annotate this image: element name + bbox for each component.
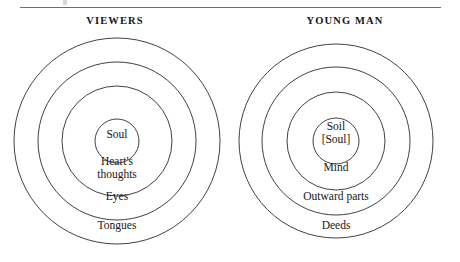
ring-label-hearts-thoughts-line2: thoughts — [74, 168, 160, 181]
ring-label-outward-parts: Outward parts — [303, 190, 368, 203]
ring-label-eyes: Eyes — [106, 190, 128, 203]
ring-label-soul-bracketed: [Soul] — [306, 133, 366, 146]
ring-label-soul: Soul — [106, 128, 127, 141]
ring-label-deeds: Deeds — [322, 219, 351, 232]
ring-label-mind: Mind — [324, 161, 349, 174]
panel-viewers: VIEWERS Soul Heart's thoughts Eyes Tongu… — [0, 0, 230, 262]
ring-label-hearts-thoughts: Heart's thoughts — [74, 155, 160, 181]
ring-label-hearts-thoughts-line1: Heart's — [74, 155, 160, 168]
ring-label-soil-soul: Soil [Soul] — [306, 120, 366, 146]
ring-tongues — [14, 38, 220, 244]
ring-label-soil: Soil — [306, 120, 366, 133]
panel-young-man: YOUNG MAN Soil [Soul] Mind Outward parts… — [230, 0, 460, 262]
ring-label-tongues: Tongues — [98, 219, 137, 232]
figure-root: VIEWERS Soul Heart's thoughts Eyes Tongu… — [0, 0, 460, 262]
